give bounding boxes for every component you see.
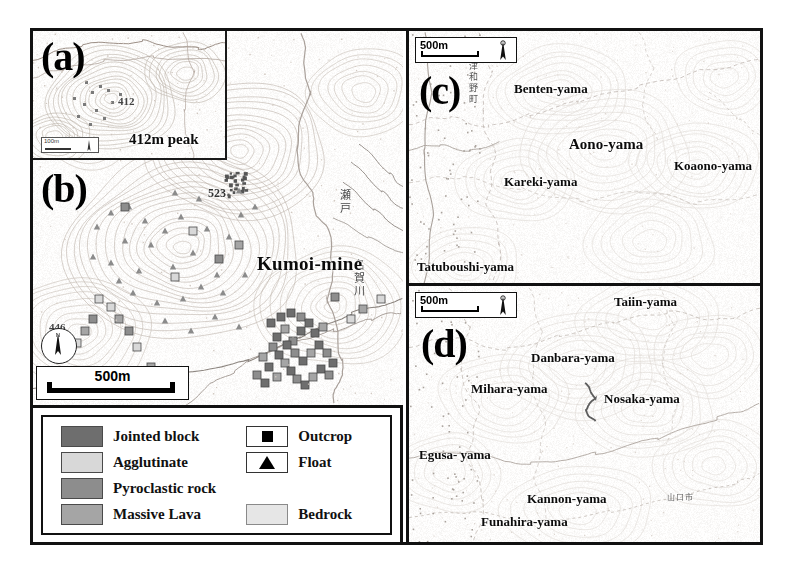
square-icon	[262, 431, 273, 442]
label-egusa-yama: Egusa- yama	[419, 448, 491, 462]
legend-inner-frame: Jointed block Agglutinate Pyroclastic ro…	[41, 415, 392, 535]
legend-label-agglutinate: Agglutinate	[113, 454, 188, 471]
label-nosaka-yama: Nosaka-yama	[604, 391, 680, 407]
swatch-jointed-block	[61, 426, 103, 447]
legend-column-symbols: Outcrop Float Bedrock	[238, 423, 390, 533]
legend-item-outcrop[interactable]: Outcrop	[246, 423, 390, 449]
panel-c-scalebar-line	[421, 55, 479, 57]
label-taiin-yama: Taiin-yama	[614, 294, 677, 310]
panel-d-scalebar-text: 500m	[420, 294, 448, 306]
panel-d-scalebar: 500m	[415, 292, 517, 318]
legend-item-massive-lava[interactable]: Massive Lava	[61, 501, 238, 527]
panel-d-scalebar-line	[421, 310, 479, 312]
legend-panel: Jointed block Agglutinate Pyroclastic ro…	[33, 405, 403, 542]
panel-b-letter: (b)	[41, 169, 87, 209]
legend-label-pyroclastic-rock: Pyroclastic rock	[113, 480, 216, 497]
svg-text:N: N	[56, 332, 60, 338]
symbol-outcrop-box	[246, 426, 288, 447]
legend-label-massive-lava: Massive Lava	[113, 506, 201, 523]
panel-c-letter: (c)	[419, 71, 460, 111]
legend-label-float: Float	[298, 454, 331, 471]
label-spot-height-412: 412	[118, 95, 135, 107]
legend-label-jointed-block: Jointed block	[113, 428, 199, 445]
panel-b-north-arrow: N	[41, 328, 77, 364]
label-aono-yama: Aono-yama	[569, 136, 643, 153]
label-mihara-yama: Mihara-yama	[471, 381, 548, 397]
label-kumoi-mine: Kumoi-mine	[257, 253, 362, 275]
label-tatuboushi-yama: Tatuboushi-yama	[417, 259, 514, 275]
panel-a-scalebar-line	[45, 148, 71, 150]
figure-outer-frame: (b) Kumoi-mine 523 446 瀬戸 名賀川 N 500m (a)…	[30, 28, 763, 545]
legend-label-bedrock: Bedrock	[298, 506, 352, 523]
label-kannon-yama: Kannon-yama	[527, 491, 606, 507]
label-412m-peak: 412m peak	[129, 131, 199, 148]
legend-label-outcrop: Outcrop	[298, 428, 352, 445]
label-spot-height-523: 523	[208, 186, 226, 201]
north-arrow-icon: N	[42, 329, 74, 361]
label-benten-yama: Benten-yama	[514, 81, 588, 97]
label-river-seto: 瀬戸	[336, 189, 352, 215]
legend-item-jointed-block[interactable]: Jointed block	[61, 423, 238, 449]
label-danbara-yama: Danbara-yama	[531, 350, 615, 366]
triangle-icon	[259, 456, 275, 469]
panel-b-scalebar: 500m	[36, 366, 189, 400]
panel-a-scalebar-text: 100m	[44, 138, 59, 144]
north-arrow-icon	[86, 140, 92, 152]
legend-item-bedrock[interactable]: Bedrock	[246, 501, 390, 527]
swatch-bedrock	[246, 504, 288, 525]
panel-a-letter: (a)	[41, 37, 85, 77]
legend-column-lithology: Jointed block Agglutinate Pyroclastic ro…	[61, 423, 238, 533]
north-arrow-icon	[497, 40, 509, 62]
label-koaono-yama: Koaono-yama	[674, 158, 752, 174]
panel-b-scalebar-text: 500m	[37, 368, 188, 384]
legend-item-float[interactable]: Float	[246, 449, 390, 475]
swatch-agglutinate	[61, 452, 103, 473]
panel-c-scalebar: 500m	[415, 37, 517, 63]
panel-c-canvas	[409, 31, 760, 283]
symbol-float-box	[246, 452, 288, 473]
label-funahira-yama: Funahira-yama	[481, 514, 568, 530]
swatch-massive-lava	[61, 504, 103, 525]
north-arrow-icon	[497, 295, 509, 317]
panel-a-map[interactable]: (a) 412m peak 412 100m	[33, 31, 227, 160]
figure-root: (b) Kumoi-mine 523 446 瀬戸 名賀川 N 500m (a)…	[0, 0, 797, 565]
panel-b-scalebar-line	[47, 388, 175, 393]
label-tsuwano-town: 津和野町	[467, 61, 480, 105]
legend-item-pyroclastic-rock[interactable]: Pyroclastic rock	[61, 475, 238, 501]
panel-c-scalebar-text: 500m	[420, 39, 448, 51]
legend-item-agglutinate[interactable]: Agglutinate	[61, 449, 238, 475]
label-kareki-yama: Kareki-yama	[504, 174, 577, 190]
swatch-pyroclastic-rock	[61, 478, 103, 499]
label-yamaguchi-city: 山口市	[667, 491, 694, 502]
panel-d-map[interactable]: (d) Taiin-yama Danbara-yama Mihara-yama …	[406, 283, 760, 542]
panel-a-scalebar: 100m	[41, 137, 99, 153]
panel-c-map[interactable]: (c) 津和野町 Benten-yama Aono-yama Koaono-ya…	[406, 31, 760, 283]
panel-d-letter: (d)	[421, 324, 467, 364]
